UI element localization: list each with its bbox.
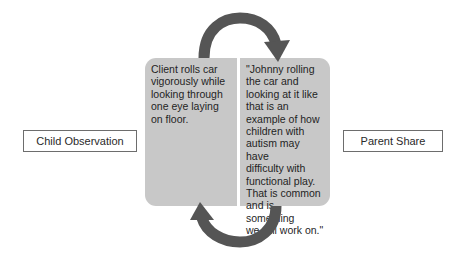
bottom-curved-arrow-icon bbox=[190, 202, 276, 242]
top-curved-arrow-icon bbox=[204, 18, 290, 62]
cycle-arrows bbox=[0, 0, 463, 253]
